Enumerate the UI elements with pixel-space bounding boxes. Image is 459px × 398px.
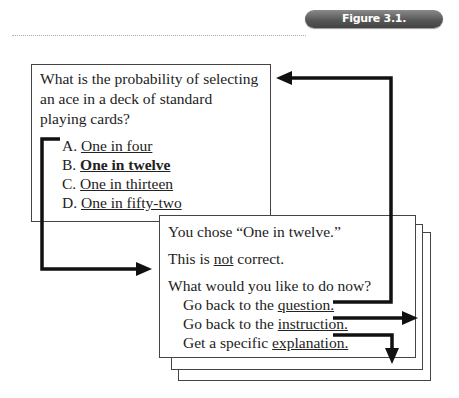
option-link[interactable]: One in twelve xyxy=(80,156,170,173)
option-link[interactable]: One in thirteen xyxy=(80,175,173,192)
explanation-link[interactable]: explanation. xyxy=(272,334,348,351)
question-text: What is the probability of selecting an … xyxy=(40,69,262,129)
verdict-suffix: correct. xyxy=(233,250,284,267)
option-a[interactable]: A. One in four xyxy=(40,136,262,155)
feedback-screen: You chose “One in twelve.” This is not c… xyxy=(159,215,416,358)
figure-caption-badge: Figure 3.1. Hyperlinking. xyxy=(305,10,443,28)
option-link[interactable]: One in four xyxy=(81,137,152,154)
question-link[interactable]: question. xyxy=(278,296,334,313)
option-link[interactable]: One in fifty-two xyxy=(81,194,182,211)
prompt-text: What would you like to do now? xyxy=(168,276,407,295)
option-letter: A. xyxy=(62,137,77,154)
option-b[interactable]: B. One in twelve xyxy=(40,155,262,174)
option-c[interactable]: C. One in thirteen xyxy=(40,174,262,193)
question-screen: What is the probability of selecting an … xyxy=(31,64,271,222)
option-letter: B. xyxy=(62,156,76,173)
arrowhead-right-icon xyxy=(136,262,152,276)
arrowhead-left-icon xyxy=(276,71,292,85)
verdict-prefix: This is xyxy=(168,250,214,267)
dotted-divider xyxy=(12,35,306,36)
action-go-to-question[interactable]: Go back to the question. xyxy=(168,295,407,314)
option-letter: C. xyxy=(62,175,76,192)
option-letter: D. xyxy=(62,194,77,211)
chosen-answer-text: You chose “One in twelve.” xyxy=(168,222,407,241)
action-go-to-instruction[interactable]: Go back to the instruction. xyxy=(168,314,407,333)
action-prefix: Go back to the xyxy=(183,296,278,313)
option-d[interactable]: D. One in fifty-two xyxy=(40,193,262,212)
verdict-text: This is not correct. xyxy=(168,249,407,268)
action-prefix: Get a specific xyxy=(183,334,272,351)
action-prefix: Go back to the xyxy=(183,315,278,332)
verdict-emphasis: not xyxy=(214,250,234,267)
instruction-link[interactable]: instruction. xyxy=(278,315,348,332)
action-get-explanation[interactable]: Get a specific explanation. xyxy=(168,333,407,352)
